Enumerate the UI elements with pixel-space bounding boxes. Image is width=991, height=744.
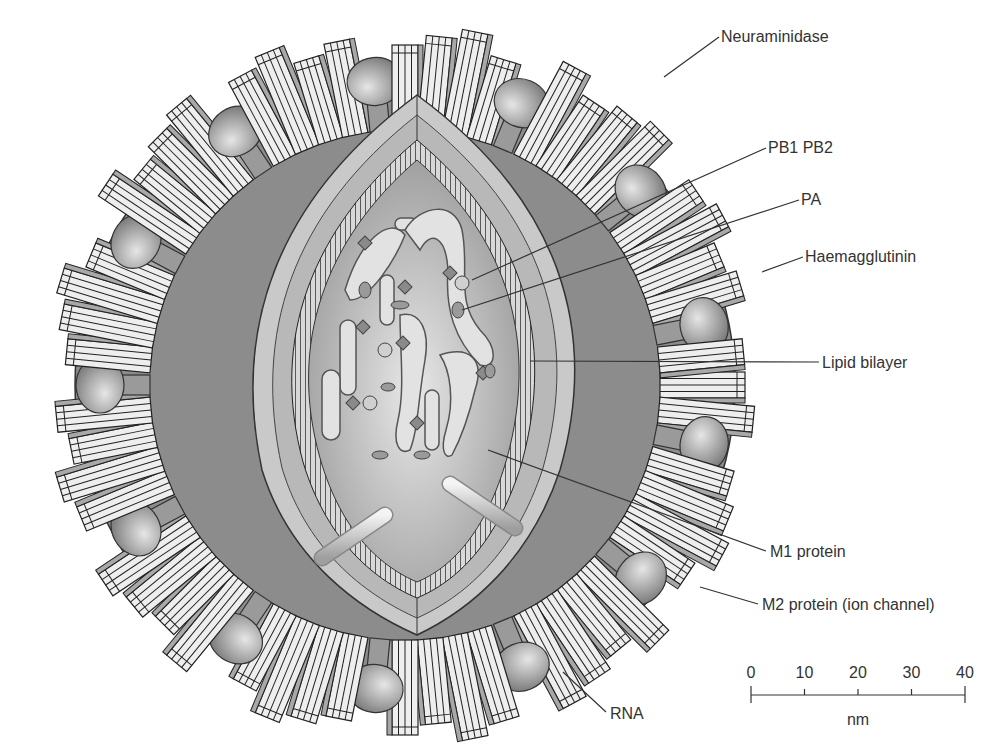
label-m1-protein: M1 protein <box>770 543 846 560</box>
leader-line-m2-protein <box>700 587 758 604</box>
label-pb1-pb2: PB1 PB2 <box>768 139 833 156</box>
influenza-virus-diagram: NeuraminidasePB1 PB2PAHaemagglutininLipi… <box>0 0 991 744</box>
label-haemagglutinin: Haemagglutinin <box>805 248 916 265</box>
label-neuraminidase: Neuraminidase <box>721 28 829 45</box>
label-rna: RNA <box>610 705 644 722</box>
scale-bar: 010203040 nm <box>747 664 974 728</box>
leader-line-haemagglutinin <box>762 257 803 272</box>
scale-unit: nm <box>847 711 869 728</box>
label-pa: PA <box>801 191 821 208</box>
leader-line-neuraminidase <box>664 37 719 77</box>
scale-tick-label: 40 <box>956 664 974 681</box>
scale-tick-label: 0 <box>747 664 756 681</box>
scale-tick-label: 10 <box>796 664 814 681</box>
scale-tick-label: 30 <box>903 664 921 681</box>
label-lipid-bilayer: Lipid bilayer <box>822 354 908 371</box>
scale-tick-label: 20 <box>849 664 867 681</box>
label-m2-protein: M2 protein (ion channel) <box>762 596 935 613</box>
